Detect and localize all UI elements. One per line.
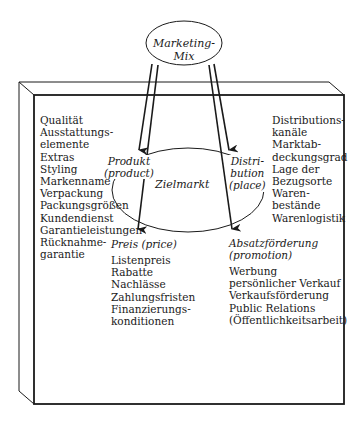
list-item: Kundendienst — [40, 212, 142, 224]
list-item: Bezugsorte — [272, 175, 348, 187]
list-item: Garantieleistungen — [40, 224, 142, 236]
price-items: Listenpreis Rabatte Nachlässe Zahlungsfr… — [111, 254, 195, 327]
promotion-label: Absatzförderung (promotion) — [229, 237, 318, 261]
list-item: Zahlungsfristen — [111, 291, 195, 303]
list-item: bestände — [272, 199, 348, 211]
list-item: Nachlässe — [111, 278, 195, 290]
list-item: Public Relations — [229, 302, 347, 314]
list-item: Werbung — [229, 265, 347, 277]
list-item: Verpackung — [40, 187, 142, 199]
list-item: Lage der — [272, 163, 348, 175]
list-item: elemente — [40, 138, 142, 150]
list-item: Rabatte — [111, 266, 195, 278]
list-item: Markenname — [40, 175, 142, 187]
list-item: deckungsgrad — [272, 151, 348, 163]
list-item: kanäle — [272, 126, 348, 138]
list-item: Verkaufsförderung — [229, 289, 347, 301]
marketing-mix-title: Marketing-Mix — [146, 37, 222, 63]
price-label: Preis (price) — [111, 238, 177, 250]
list-item: Styling — [40, 163, 142, 175]
list-item: Distributions- — [272, 114, 348, 126]
zielmarkt-label: Zielmarkt — [155, 178, 210, 191]
place-label: Distri- bution (place) — [228, 155, 267, 192]
list-item: Finanzierungs- — [111, 303, 195, 315]
list-item: persönlicher Verkauf — [229, 277, 347, 289]
list-item: (Öffentlichkeitsarbeit) — [229, 314, 347, 326]
promotion-items: Werbung persönlicher Verkauf Verkaufsför… — [229, 265, 347, 326]
list-item: konditionen — [111, 315, 195, 327]
arrows — [138, 64, 232, 229]
list-item: Marktab- — [272, 138, 348, 150]
list-item: Warenlogistik — [272, 212, 348, 224]
list-item: Ausstattungs- — [40, 126, 142, 138]
list-item: Extras — [40, 151, 142, 163]
place-items: Distributions- kanäle Marktab- deckungsg… — [272, 114, 348, 224]
list-item: Qualität — [40, 114, 142, 126]
list-item: Waren- — [272, 187, 348, 199]
list-item: Listenpreis — [111, 254, 195, 266]
list-item: Packungsgrößen — [40, 199, 142, 211]
arrow-to-place — [214, 64, 229, 150]
